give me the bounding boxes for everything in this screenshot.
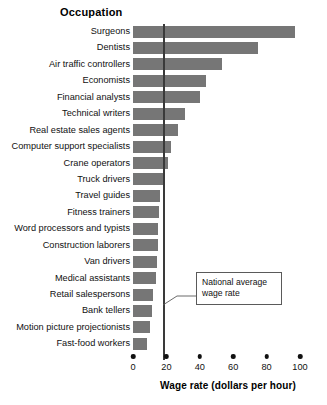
x-axis-tick-dot xyxy=(231,354,236,359)
bar xyxy=(133,256,157,268)
bar xyxy=(133,58,222,70)
x-axis: Wage rate (dollars per hour) 02040608010… xyxy=(0,352,327,405)
bar-category-label: Word processors and typists xyxy=(0,222,130,234)
x-axis-title: Wage rate (dollars per hour) xyxy=(133,380,323,391)
bar xyxy=(133,338,147,350)
bar xyxy=(133,141,171,153)
bar-category-label: Financial analysts xyxy=(0,91,130,103)
x-axis-tick-dot xyxy=(164,354,169,359)
bar-category-label: Real estate sales agents xyxy=(0,124,130,136)
x-axis-tick-label: 20 xyxy=(161,362,171,372)
x-axis-tick-label: 80 xyxy=(261,362,271,372)
national-average-callout: National average wage rate xyxy=(196,272,282,305)
x-axis-tick-dot xyxy=(298,354,303,359)
x-axis-tick-dot xyxy=(131,354,136,359)
bar-chart: Occupation SurgeonsDentistsAir traffic c… xyxy=(0,0,327,405)
x-axis-tick-dot xyxy=(198,354,203,359)
bar-category-label: Surgeons xyxy=(0,25,130,37)
chart-title: Occupation xyxy=(60,6,123,18)
x-axis-tick-dot xyxy=(264,354,269,359)
bar xyxy=(133,305,152,317)
bar-category-label: Motion picture projectionists xyxy=(0,321,130,333)
bar-category-label: Fast-food workers xyxy=(0,337,130,349)
bar xyxy=(133,26,295,38)
bar xyxy=(133,91,200,103)
bar-category-label: Economists xyxy=(0,74,130,86)
callout-line-2: wage rate xyxy=(202,288,276,299)
bar xyxy=(133,124,178,136)
bar xyxy=(133,321,150,333)
bar-category-label: Travel guides xyxy=(0,189,130,201)
bar xyxy=(133,272,156,284)
bar-category-label: Retail salespersons xyxy=(0,288,130,300)
bar-category-label: Dentists xyxy=(0,41,130,53)
x-axis-tick-label: 40 xyxy=(195,362,205,372)
bar-category-label: Construction laborers xyxy=(0,239,130,251)
x-axis-tick-label: 100 xyxy=(292,362,307,372)
bar xyxy=(133,239,158,251)
bar-category-label: Air traffic controllers xyxy=(0,58,130,70)
bar-category-label: Computer support specialists xyxy=(0,140,130,152)
bar-category-label: Van drivers xyxy=(0,255,130,267)
bar-category-label: Crane operators xyxy=(0,157,130,169)
bar xyxy=(133,206,159,218)
bar xyxy=(133,223,158,235)
national-average-reference-line xyxy=(163,24,165,360)
bar-category-label: Bank tellers xyxy=(0,304,130,316)
bar-category-label: Truck drivers xyxy=(0,173,130,185)
bar-category-label: Technical writers xyxy=(0,107,130,119)
bar xyxy=(133,289,153,301)
bar xyxy=(133,42,258,54)
x-axis-tick-label: 0 xyxy=(130,362,135,372)
bar xyxy=(133,190,160,202)
x-axis-tick-label: 60 xyxy=(228,362,238,372)
callout-line-1: National average xyxy=(202,277,276,288)
bar xyxy=(133,108,185,120)
bar xyxy=(133,173,164,185)
bar xyxy=(133,75,206,87)
bar-category-label: Medical assistants xyxy=(0,272,130,284)
bar-category-label: Fitness trainers xyxy=(0,206,130,218)
